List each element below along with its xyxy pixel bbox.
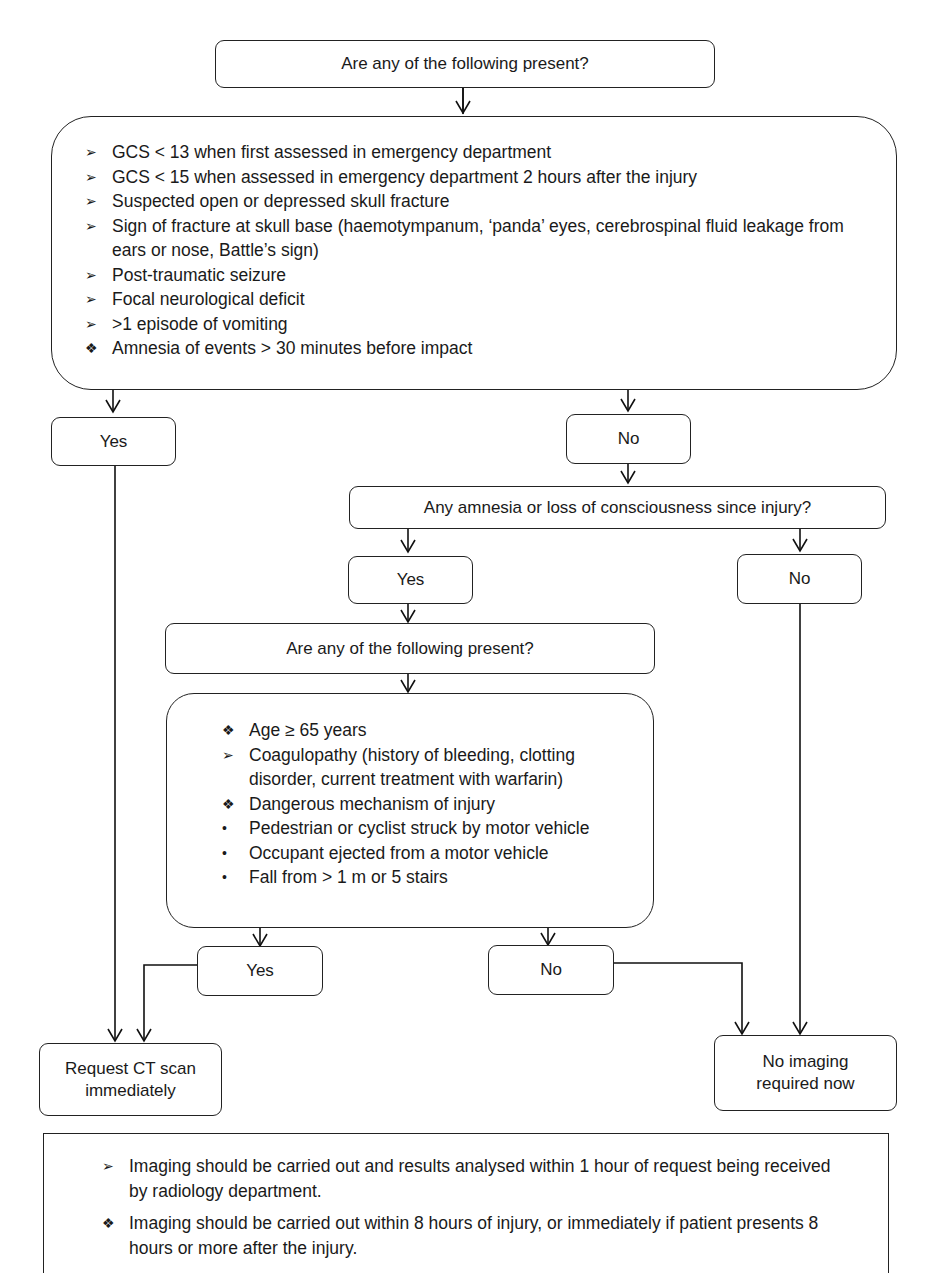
branch2-yes-box: Yes: [348, 556, 473, 604]
branch3-yes-box: Yes: [197, 946, 323, 996]
diamond-bullet-icon: ❖: [85, 336, 105, 361]
criterion-item: ➢Suspected open or depressed skull fract…: [85, 189, 896, 214]
arrowhead-bullet-icon: ➢: [85, 140, 105, 165]
criterion-item: ➢Post-traumatic seizure: [85, 263, 896, 288]
criterion-item: •Fall from > 1 m or 5 stairs: [222, 865, 633, 890]
criterion-item: ➢Sign of fracture at skull base (haemoty…: [85, 214, 896, 263]
criterion-item: •Pedestrian or cyclist struck by motor v…: [222, 816, 633, 841]
medium-risk-criteria-list: ❖Age ≥ 65 years ➢Coagulopathy (history o…: [222, 718, 653, 906]
outcome-ct-scan-box: Request CT scan immediately: [39, 1043, 222, 1116]
criterion-item: •Occupant ejected from a motor vehicle: [222, 841, 633, 866]
criterion-item: ❖Amnesia of events > 30 minutes before i…: [85, 336, 896, 361]
diamond-bullet-icon: ❖: [102, 1211, 122, 1236]
high-risk-criteria-box: ➢GCS < 13 when first assessed in emergen…: [51, 116, 897, 390]
diamond-bullet-icon: ❖: [222, 792, 242, 817]
dot-bullet-icon: •: [222, 865, 242, 890]
medium-risk-criteria-box: ❖Age ≥ 65 years ➢Coagulopathy (history o…: [166, 693, 654, 928]
branch1-yes-box: Yes: [51, 417, 176, 466]
third-question-box: Are any of the following present?: [165, 623, 655, 674]
arrowhead-bullet-icon: ➢: [85, 165, 105, 190]
arrowhead-bullet-icon: ➢: [222, 743, 242, 768]
arrowhead-bullet-icon: ➢: [102, 1154, 122, 1179]
arrowhead-bullet-icon: ➢: [85, 189, 105, 214]
dot-bullet-icon: •: [222, 816, 242, 841]
second-question-box: Any amnesia or loss of consciousness sin…: [349, 486, 886, 529]
criterion-item: ❖Dangerous mechanism of injury: [222, 792, 633, 817]
diamond-bullet-icon: ❖: [222, 718, 242, 743]
notes-box: ➢Imaging should be carried out and resul…: [43, 1133, 889, 1273]
criterion-item: ➢GCS < 15 when assessed in emergency dep…: [85, 165, 896, 190]
branch1-no-box: No: [566, 414, 691, 464]
dot-bullet-icon: •: [222, 841, 242, 866]
criterion-item: ➢Focal neurological deficit: [85, 287, 896, 312]
criterion-item: ➢>1 episode of vomiting: [85, 312, 896, 337]
notes-list: ➢Imaging should be carried out and resul…: [102, 1154, 848, 1260]
branch3-no-box: No: [488, 945, 614, 995]
arrowhead-bullet-icon: ➢: [85, 312, 105, 337]
criterion-item: ➢GCS < 13 when first assessed in emergen…: [85, 140, 896, 165]
outcome-no-imaging-box: No imaging required now: [714, 1035, 897, 1111]
note-item: ➢Imaging should be carried out and resul…: [102, 1154, 848, 1203]
arrowhead-bullet-icon: ➢: [85, 214, 105, 239]
criterion-item: ➢Coagulopathy (history of bleeding, clot…: [222, 743, 633, 792]
criterion-item: ❖Age ≥ 65 years: [222, 718, 633, 743]
branch2-no-box: No: [737, 554, 862, 604]
note-item: ❖Imaging should be carried out within 8 …: [102, 1211, 848, 1260]
top-question-box: Are any of the following present?: [215, 40, 715, 88]
arrowhead-bullet-icon: ➢: [85, 287, 105, 312]
high-risk-criteria-list: ➢GCS < 13 when first assessed in emergen…: [85, 140, 896, 361]
top-question-text: Are any of the following present?: [341, 53, 589, 75]
arrowhead-bullet-icon: ➢: [85, 263, 105, 288]
